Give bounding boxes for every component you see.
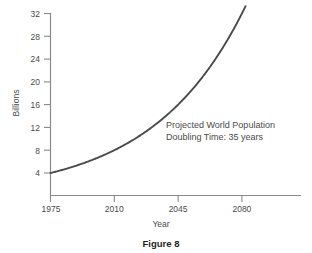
y-tick-label-12: 12: [31, 123, 41, 133]
y-tick-label-4: 4: [35, 168, 40, 178]
y-tick-label-24: 24: [31, 54, 41, 64]
figure-container: 32 28 24 20 16 12 8 4 1975 2010 2045 208…: [0, 0, 312, 253]
population-growth-chart: 32 28 24 20 16 12 8 4 1975 2010 2045 208…: [0, 0, 312, 253]
x-axis-tick-labels: 1975 2010 2045 2080: [42, 204, 252, 214]
population-curve: [51, 6, 246, 173]
y-axis-tick-labels: 32 28 24 20 16 12 8 4: [31, 9, 41, 179]
y-tick-label-16: 16: [31, 100, 41, 110]
figure-caption: Figure 8: [143, 238, 180, 249]
y-tick-label-28: 28: [31, 32, 41, 42]
y-axis-title: Billions: [11, 90, 21, 117]
annotation-line-1: Projected World Population: [166, 120, 275, 130]
x-tick-label-2045: 2045: [169, 204, 188, 214]
y-axis-ticks: [44, 14, 51, 174]
chart-annotation: Projected World Population Doubling Time…: [166, 120, 275, 142]
y-tick-label-20: 20: [31, 77, 41, 87]
y-tick-label-8: 8: [35, 146, 40, 156]
annotation-line-2: Doubling Time: 35 years: [166, 132, 264, 142]
x-tick-label-1975: 1975: [42, 204, 61, 214]
chart-axes: [51, 13, 302, 196]
x-tick-label-2010: 2010: [105, 204, 124, 214]
x-axis-ticks: [51, 196, 242, 203]
x-tick-label-2080: 2080: [232, 204, 251, 214]
x-axis-title: Year: [152, 219, 169, 229]
y-tick-label-32: 32: [31, 9, 41, 19]
